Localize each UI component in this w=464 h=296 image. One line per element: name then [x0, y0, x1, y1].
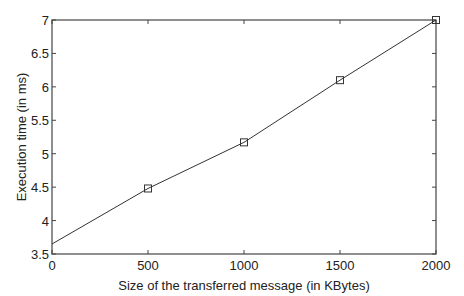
plot-area — [52, 20, 436, 254]
series-line — [52, 20, 436, 244]
y-tick-label: 5.5 — [31, 113, 49, 128]
axes-frame — [52, 20, 436, 254]
y-tick-label: 7 — [42, 13, 49, 28]
x-axis: 0500100015002000 — [48, 20, 450, 273]
y-tick-label: 6.5 — [31, 46, 49, 61]
y-tick-label: 3.5 — [31, 247, 49, 262]
y-axis-label: Execution time (in ms) — [14, 73, 29, 202]
x-tick-label: 1000 — [230, 258, 259, 273]
x-tick-label: 2000 — [422, 258, 451, 273]
y-axis: 3.544.555.566.57 — [31, 13, 436, 262]
y-tick-label: 5 — [42, 147, 49, 162]
line-chart: 0500100015002000 3.544.555.566.57 Size o… — [0, 0, 464, 296]
x-tick-label: 1500 — [326, 258, 355, 273]
x-tick-label: 500 — [137, 258, 159, 273]
y-tick-label: 6 — [42, 80, 49, 95]
data-series — [52, 17, 440, 244]
y-tick-label: 4.5 — [31, 180, 49, 195]
y-tick-label: 4 — [42, 214, 49, 229]
x-tick-label: 0 — [48, 258, 55, 273]
x-axis-label: Size of the transferred message (in KByt… — [118, 278, 369, 293]
